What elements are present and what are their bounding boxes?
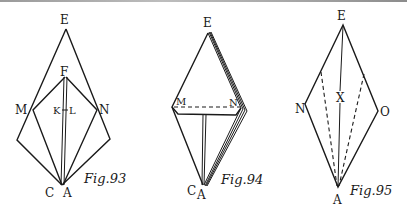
figure-94: E M N C A Fig.94 — [172, 16, 263, 202]
fig94-right-edge-3 — [206, 32, 245, 186]
fig95-label-o: O — [380, 105, 390, 119]
fig94-label-n: N — [229, 97, 238, 108]
fig94-label-c: C — [187, 184, 196, 198]
fig94-center-line-right — [204, 115, 206, 185]
fig94-lower-fold-line — [172, 107, 241, 115]
fig95-center-line-upper — [340, 26, 343, 91]
fig95-center-line-lower — [338, 103, 340, 187]
fig94-center-line-left — [202, 115, 203, 185]
fig95-label-n: N — [295, 102, 306, 116]
fig94-right-edge-1 — [204, 33, 241, 185]
fig94-label-m: M — [176, 96, 186, 107]
fig93-label-e: E — [60, 13, 69, 27]
fig93-label-a: A — [62, 186, 72, 200]
fig94-label-a: A — [196, 188, 206, 202]
figure-95: E N X O A Fig.95 — [295, 9, 392, 207]
fig95-label-x: X — [336, 91, 345, 105]
fig93-label-m: M — [15, 103, 27, 117]
fig95-caption: Fig.95 — [349, 183, 392, 198]
fig94-label-e: E — [203, 16, 212, 30]
figure-93: E F M N K L C A Fig.93 — [15, 13, 126, 200]
fig93-label-n: N — [99, 103, 110, 117]
fig95-label-a: A — [332, 193, 342, 207]
fig93-label-c: C — [45, 186, 54, 200]
fig93-center-line-right — [64, 77, 67, 185]
fig93-center-line-left — [61, 77, 64, 185]
fig94-right-edge-2 — [205, 32, 243, 186]
fig94-caption: Fig.94 — [220, 172, 263, 187]
fig93-label-f: F — [60, 65, 68, 79]
diagram-canvas: E F M N K L C A Fig.93 E M N C A Fig.94 — [0, 0, 407, 213]
fig95-label-e: E — [337, 9, 346, 23]
fig93-label-k: K — [53, 105, 61, 116]
fig93-caption: Fig.93 — [83, 171, 126, 186]
fig95-left-dashed-fold — [321, 72, 337, 186]
fig93-label-l: L — [69, 105, 76, 116]
